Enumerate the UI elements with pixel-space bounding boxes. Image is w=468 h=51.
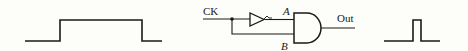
b-branch-wire	[232, 19, 294, 34]
pulse-circuit-diagram: CK A B Out	[0, 0, 468, 51]
node-a-label: A	[282, 5, 290, 17]
input-waveform	[25, 20, 162, 41]
ck-label: CK	[203, 5, 218, 17]
output-waveform	[384, 20, 440, 41]
out-label: Out	[337, 12, 354, 24]
diagram-svg: CK A B Out	[0, 0, 468, 51]
inverter-icon	[250, 13, 264, 26]
node-b-label: B	[281, 40, 288, 51]
delay-mark-icon	[264, 16, 272, 19]
and-gate-icon	[294, 13, 321, 43]
